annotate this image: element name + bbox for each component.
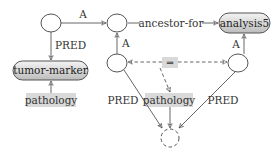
pathology-center-label: pathology <box>143 94 196 106</box>
node-right <box>228 54 248 72</box>
node-top-mid <box>107 14 127 32</box>
analysis5-label: analysis5 <box>220 17 269 29</box>
edge-label-a-right: A <box>231 38 240 50</box>
edge-label-ancestor-for: ancestor-for <box>139 17 205 29</box>
tumor-marker-label: tumor-marker <box>13 64 89 76</box>
rewrite-rule-diagram: analysis5 tumor-marker pathology patholo… <box>0 0 275 153</box>
node-top-left <box>41 14 61 32</box>
edge-label-pred-left: PRED <box>107 94 138 106</box>
edge-label-a-top: A <box>78 8 87 20</box>
pathology-left-label: pathology <box>25 94 78 106</box>
edge-implies-down <box>160 68 170 92</box>
edge-label-a-mid-left: A <box>121 37 130 49</box>
edge-label-pred-tumor-marker: PRED <box>55 39 86 51</box>
node-mid-left <box>107 54 127 72</box>
implies-label: ⇒ <box>166 58 174 68</box>
edge-label-pred-right: PRED <box>207 94 238 106</box>
node-bottom-dashed <box>161 129 179 147</box>
